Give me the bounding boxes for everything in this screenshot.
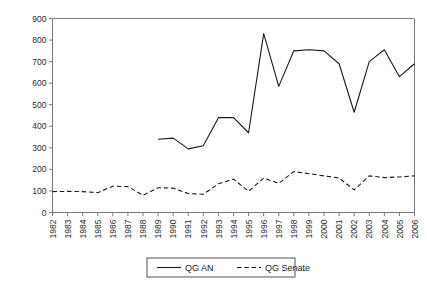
- chart-background: [0, 0, 427, 288]
- x-tick-label: 1988: [138, 219, 148, 238]
- x-tick-label: 1986: [108, 219, 118, 238]
- chart-legend: QG ANQG Senate: [147, 258, 310, 277]
- x-tick-label: 1995: [244, 219, 254, 238]
- legend-label-qg-an: QG AN: [185, 263, 214, 273]
- y-tick-label: 800: [32, 35, 46, 45]
- x-tick-label: 1989: [153, 219, 163, 238]
- x-tick-label: 1994: [229, 219, 239, 238]
- y-tick-label: 100: [32, 186, 46, 196]
- y-tick-label: 700: [32, 57, 46, 67]
- x-tick-label: 1990: [168, 219, 178, 238]
- x-tick-label: 2001: [334, 219, 344, 238]
- x-tick-label: 1998: [289, 219, 299, 238]
- x-tick-label: 2006: [410, 219, 420, 238]
- x-tick-label: 1987: [123, 219, 133, 238]
- y-tick-label: 200: [32, 164, 46, 174]
- x-tick-label: 2005: [395, 219, 405, 238]
- x-tick-label: 1997: [274, 219, 284, 238]
- y-tick-label: 400: [32, 121, 46, 131]
- x-tick-label: 1983: [63, 219, 73, 238]
- x-tick-label: 1982: [48, 219, 58, 238]
- line-chart: 0100200300400500600700800900 19821983198…: [0, 0, 427, 288]
- y-tick-label: 0: [42, 208, 47, 218]
- x-tick-label: 2002: [349, 219, 359, 238]
- y-tick-label: 900: [32, 14, 46, 24]
- y-tick-label: 600: [32, 78, 46, 88]
- x-tick-label: 2000: [319, 219, 329, 238]
- x-tick-label: 2004: [380, 219, 390, 238]
- x-tick-label: 1996: [259, 219, 269, 238]
- x-tick-label: 1991: [183, 219, 193, 238]
- x-tick-label: 1984: [78, 219, 88, 238]
- chart-container: 0100200300400500600700800900 19821983198…: [0, 0, 427, 288]
- y-tick-label: 500: [32, 100, 46, 110]
- x-tick-label: 1992: [199, 219, 209, 238]
- x-tick-label: 2003: [364, 219, 374, 238]
- x-tick-label: 1993: [214, 219, 224, 238]
- y-tick-label: 300: [32, 143, 46, 153]
- x-tick-label: 1999: [304, 219, 314, 238]
- x-tick-label: 1985: [93, 219, 103, 238]
- legend-label-qg-senate: QG Senate: [265, 263, 310, 273]
